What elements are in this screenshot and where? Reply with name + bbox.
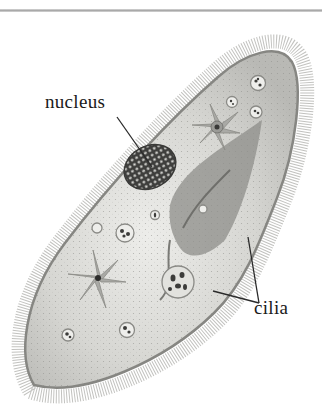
paramecium-illustration [0, 0, 322, 407]
label-cilia: cilia [254, 297, 288, 319]
label-nucleus: nucleus [45, 91, 105, 113]
